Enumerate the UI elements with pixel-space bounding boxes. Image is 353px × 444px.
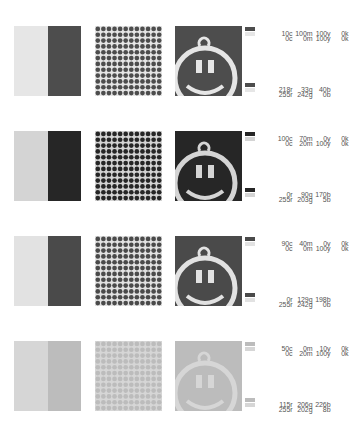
smiley-face-icon	[175, 341, 242, 411]
light-swatch	[245, 137, 255, 141]
cmyk-c-value: 0c	[275, 246, 292, 251]
rgb-b-value: 0b	[312, 92, 330, 97]
cmyk-y-value: 100y	[312, 351, 330, 356]
rgb-g-value: 203g	[292, 197, 312, 202]
dark-swatch	[245, 132, 255, 136]
color-pair-row: 10c100m100y0k 0c0m100y0k 218r33g40b 255r…	[0, 26, 353, 98]
cmyk-m-value: 0m	[292, 246, 312, 251]
rgb-b-value: 0b	[312, 302, 330, 307]
cmyk-k-value: 0k	[330, 141, 348, 146]
cmyk-c-value: 0c	[275, 351, 292, 356]
dark-swatch	[245, 27, 255, 31]
dark-color-half	[48, 236, 82, 306]
cmyk-k-value: 0k	[330, 246, 348, 251]
color-pair-row: 50c0m10y0k 0c20m100y0k 115r206g226b 255r…	[0, 341, 353, 413]
color-values-legend: 10c100m100y0k 0c0m100y0k 218r33g40b 255r…	[245, 26, 353, 96]
cmyk-m-value: 20m	[292, 141, 312, 146]
rgb-g-value: 202g	[292, 407, 312, 412]
split-color-block	[14, 26, 81, 96]
dark-swatch	[245, 188, 255, 192]
cmyk-y-value: 100y	[312, 36, 330, 41]
cmyk-light-line: 0c0m100y0k	[245, 242, 353, 247]
dot-pattern-block	[95, 236, 162, 306]
dark-swatch	[245, 237, 255, 241]
cmyk-m-value: 20m	[292, 351, 312, 356]
cmyk-light-line: 0c20m100y0k	[245, 137, 353, 142]
light-swatch	[245, 193, 255, 197]
cmyk-k-value: 0k	[330, 351, 348, 356]
cmyk-c-value: 0c	[275, 141, 292, 146]
cmyk-m-value: 0m	[292, 36, 312, 41]
dot-pattern-block	[95, 341, 162, 411]
dot-pattern-block	[95, 131, 162, 201]
light-color-half	[14, 236, 48, 306]
cmyk-light-line: 0c20m100y0k	[245, 347, 353, 352]
light-swatch	[245, 347, 255, 351]
cmyk-light-line: 0c0m100y0k	[245, 32, 353, 37]
color-values-legend: 100c70m0y0k 0c20m100y0k 0r90g170b 255r20…	[245, 131, 353, 201]
cmyk-c-value: 0c	[275, 36, 292, 41]
rgb-light-line: 255r203g5b	[245, 193, 353, 198]
color-pair-row: 100c70m0y0k 0c20m100y0k 0r90g170b 255r20…	[0, 131, 353, 203]
split-color-block	[14, 131, 81, 201]
rgb-g-value: 242g	[292, 92, 312, 97]
split-color-block	[14, 341, 81, 411]
smiley-face-icon	[175, 236, 242, 306]
rgb-light-line: 255r242g0b	[245, 88, 353, 93]
dark-swatch	[245, 342, 255, 346]
dark-color-half	[48, 26, 82, 96]
dark-color-half	[48, 131, 82, 201]
rgb-g-value: 242g	[292, 302, 312, 307]
light-color-half	[14, 131, 48, 201]
dark-swatch	[245, 83, 255, 87]
dark-color-half	[48, 341, 82, 411]
color-values-legend: 50c0m10y0k 0c20m100y0k 115r206g226b 255r…	[245, 341, 353, 411]
dark-swatch	[245, 293, 255, 297]
rgb-light-line: 255r202g8b	[245, 403, 353, 408]
smiley-face-icon	[175, 131, 242, 201]
rgb-b-value: 5b	[312, 197, 330, 202]
split-color-block	[14, 236, 81, 306]
light-swatch	[245, 298, 255, 302]
rgb-r-value: 255r	[275, 302, 292, 307]
color-values-legend: 90c40m0y0k 0c0m100y0k 0r129g198b 255r242…	[245, 236, 353, 306]
dot-pattern-block	[95, 26, 162, 96]
cmyk-y-value: 100y	[312, 246, 330, 251]
color-pair-row: 90c40m0y0k 0c0m100y0k 0r129g198b 255r242…	[0, 236, 353, 308]
rgb-r-value: 255r	[275, 407, 292, 412]
light-swatch	[245, 32, 255, 36]
cmyk-y-value: 100y	[312, 141, 330, 146]
cmyk-k-value: 0k	[330, 36, 348, 41]
rgb-r-value: 255r	[275, 92, 292, 97]
light-color-half	[14, 26, 48, 96]
smiley-face-icon	[175, 26, 242, 96]
light-color-half	[14, 341, 48, 411]
light-swatch	[245, 88, 255, 92]
dark-swatch	[245, 398, 255, 402]
rgb-light-line: 255r242g0b	[245, 298, 353, 303]
rgb-r-value: 255r	[275, 197, 292, 202]
light-swatch	[245, 403, 255, 407]
rgb-b-value: 8b	[312, 407, 330, 412]
light-swatch	[245, 242, 255, 246]
